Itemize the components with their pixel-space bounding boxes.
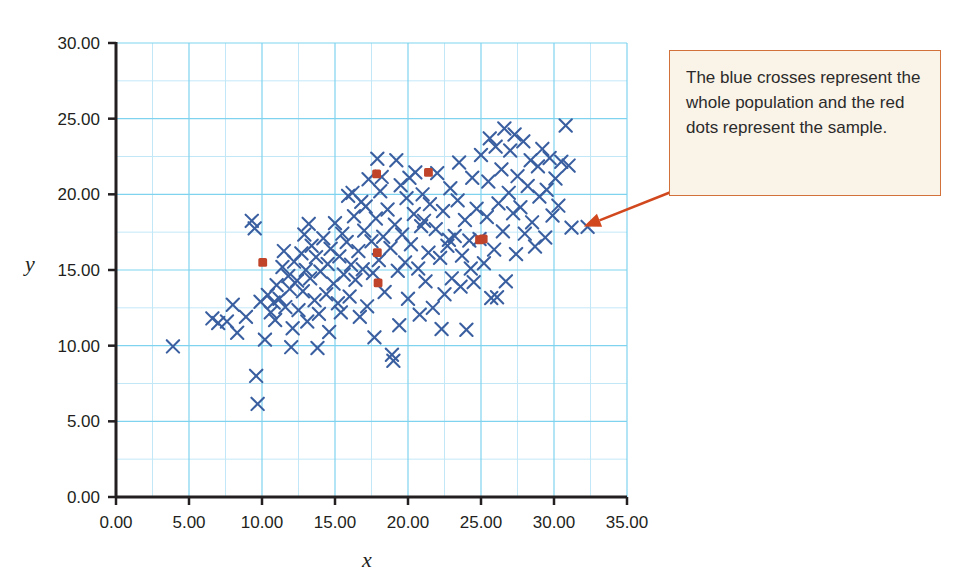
population-cross-marker	[454, 280, 466, 292]
population-cross-marker	[431, 167, 443, 179]
population-cross-marker	[303, 218, 315, 230]
population-cross-marker	[478, 257, 490, 269]
population-cross-marker	[267, 296, 279, 308]
population-cross-marker	[519, 227, 531, 239]
population-cross-marker	[444, 182, 456, 194]
population-cross-marker	[437, 205, 449, 217]
population-cross-marker	[346, 187, 358, 199]
population-cross-marker	[317, 232, 329, 244]
population-cross-marker	[459, 214, 471, 226]
population-cross-marker	[305, 240, 317, 252]
population-cross-marker	[510, 248, 522, 260]
population-cross-marker	[349, 274, 361, 286]
x-tick-label: 35.00	[606, 513, 649, 532]
x-tick-label: 15.00	[314, 513, 357, 532]
population-cross-marker	[322, 258, 334, 270]
population-cross-marker	[310, 251, 322, 263]
x-tick-label: 0.00	[99, 513, 132, 532]
population-cross-marker	[167, 340, 179, 352]
population-cross-marker	[481, 211, 493, 223]
population-cross-marker	[374, 185, 386, 197]
population-cross-marker	[482, 175, 494, 187]
y-axis-title: y	[23, 251, 35, 276]
population-cross-marker	[352, 245, 364, 257]
y-tick-label: 0.00	[67, 488, 100, 507]
sample-dot-marker	[479, 235, 488, 244]
population-cross-marker	[298, 228, 310, 240]
y-tick-label: 15.00	[57, 261, 100, 280]
population-cross-marker	[250, 370, 262, 382]
population-cross-marker	[489, 140, 501, 152]
population-cross-marker	[495, 163, 507, 175]
population-cross-marker	[389, 218, 401, 230]
population-cross-marker	[358, 224, 370, 236]
population-cross-marker	[384, 242, 396, 254]
population-cross-marker	[285, 341, 297, 353]
population-cross-marker	[503, 187, 515, 199]
population-cross-marker	[522, 180, 534, 192]
population-cross-marker	[413, 308, 425, 320]
population-cross-marker	[348, 210, 360, 222]
population-cross-marker	[311, 342, 323, 354]
population-cross-marker	[424, 198, 436, 210]
scatter-plot-figure: 0.005.0010.0015.0020.0025.0030.0035.00 0…	[0, 0, 954, 580]
population-cross-marker	[403, 171, 415, 183]
population-cross-marker	[460, 324, 472, 336]
y-tick-label: 5.00	[67, 412, 100, 431]
population-cross-marker	[532, 160, 544, 172]
population-cross-marker	[419, 275, 431, 287]
population-cross-marker	[259, 333, 271, 345]
series-population-crosses	[167, 119, 594, 410]
population-cross-marker	[484, 132, 496, 144]
population-cross-marker	[240, 311, 252, 323]
y-tick-label: 25.00	[57, 110, 100, 129]
population-cross-marker	[500, 275, 512, 287]
population-cross-marker	[313, 308, 325, 320]
population-cross-marker	[514, 201, 526, 213]
population-cross-marker	[466, 171, 478, 183]
population-cross-marker	[412, 262, 424, 274]
population-cross-marker	[295, 247, 307, 259]
population-cross-marker	[270, 279, 282, 291]
population-cross-marker	[378, 286, 390, 298]
population-cross-marker	[517, 135, 529, 147]
population-cross-marker	[359, 200, 371, 212]
population-cross-marker	[357, 263, 369, 275]
y-axis-tick-labels: 0.005.0010.0015.0020.0025.0030.00	[57, 34, 100, 507]
annotation-callout-box: The blue crosses represent the whole pop…	[669, 50, 941, 196]
x-tick-label: 10.00	[241, 513, 284, 532]
x-tick-label: 25.00	[460, 513, 503, 532]
y-tick-label: 20.00	[57, 185, 100, 204]
population-cross-marker	[381, 203, 393, 215]
population-cross-marker	[231, 327, 243, 339]
population-cross-marker	[422, 246, 434, 258]
sample-dot-marker	[372, 170, 381, 179]
x-tick-label: 30.00	[533, 513, 576, 532]
population-cross-marker	[488, 243, 500, 255]
population-cross-marker	[451, 194, 463, 206]
population-cross-marker	[456, 249, 468, 261]
sample-dot-marker	[424, 168, 433, 177]
population-cross-marker	[435, 323, 447, 335]
population-cross-marker	[539, 231, 551, 243]
population-cross-marker	[453, 156, 465, 168]
x-tick-label: 20.00	[387, 513, 430, 532]
population-cross-marker	[536, 143, 548, 155]
population-cross-marker	[405, 238, 417, 250]
population-cross-marker	[286, 322, 298, 334]
sample-dot-marker	[258, 258, 267, 267]
x-tick-label: 5.00	[172, 513, 205, 532]
population-cross-marker	[368, 331, 380, 343]
population-cross-marker	[393, 319, 405, 331]
population-cross-marker	[320, 288, 332, 300]
population-cross-marker	[278, 245, 290, 257]
population-cross-marker	[323, 326, 335, 338]
population-cross-marker	[343, 290, 355, 302]
y-tick-label: 10.00	[57, 337, 100, 356]
population-cross-marker	[367, 267, 379, 279]
y-tick-label: 30.00	[57, 34, 100, 53]
population-cross-marker	[354, 311, 366, 323]
population-cross-marker	[279, 301, 291, 313]
population-cross-marker	[465, 262, 477, 274]
population-cross-marker	[468, 276, 480, 288]
